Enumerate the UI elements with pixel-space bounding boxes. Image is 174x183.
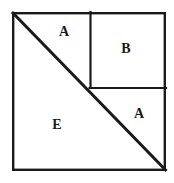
geometry-figure: A B A E: [0, 0, 174, 183]
figure-canvas: [0, 0, 174, 183]
region-label-a-right: A: [134, 107, 144, 121]
region-label-e: E: [52, 118, 61, 132]
region-label-b: B: [121, 42, 130, 56]
region-label-a-top: A: [59, 25, 69, 39]
